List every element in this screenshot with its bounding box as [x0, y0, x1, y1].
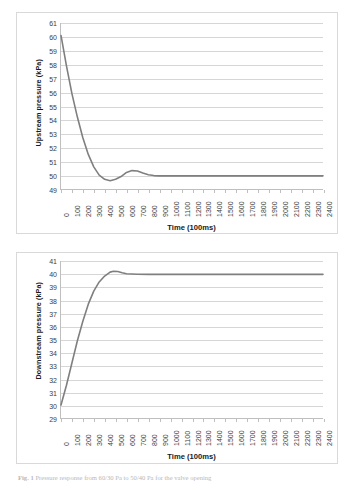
- y-tick-label: 39: [49, 284, 57, 291]
- y-tick-label: 36: [49, 323, 57, 330]
- x-tick-label: 2200: [304, 430, 311, 446]
- y-tick-label: 49: [49, 187, 57, 194]
- x-tick-label: 800: [151, 205, 158, 217]
- x-tick-label: 600: [129, 434, 136, 446]
- y-tick-label: 56: [49, 89, 57, 96]
- y-tick-label: 30: [49, 402, 57, 409]
- y-tick-label: 55: [49, 103, 57, 110]
- x-tick-label: 400: [107, 205, 114, 217]
- x-axis-title-downstream: Time (100ms): [60, 452, 323, 461]
- x-tick-label: 900: [162, 434, 169, 446]
- y-tick-label: 50: [49, 173, 57, 180]
- y-tick-label: 34: [49, 350, 57, 357]
- y-tick-label: 35: [49, 337, 57, 344]
- x-tick-label: 100: [74, 434, 81, 446]
- x-tick-label: 2300: [315, 430, 322, 446]
- chart-panel-downstream: Downstream pressure (kPa) 29303132333435…: [16, 252, 338, 464]
- x-tick-label: 800: [151, 434, 158, 446]
- x-tick-label: 1700: [249, 430, 256, 446]
- y-tick-label: 58: [49, 61, 57, 68]
- y-tick-label: 29: [49, 416, 57, 423]
- x-tick-label: 1200: [195, 201, 202, 217]
- y-tick-label: 40: [49, 271, 57, 278]
- x-tick-label: 1100: [184, 431, 191, 446]
- x-tick-label: 700: [140, 205, 147, 217]
- y-tick-label: 61: [49, 20, 57, 27]
- figure-caption-text: Pressure response from 60/30 Pa to 50/40…: [35, 474, 211, 481]
- x-tick-label: 1500: [227, 201, 234, 217]
- y-tick-label: 52: [49, 145, 57, 152]
- x-axis-tick-labels-downstream: 0100200300400500600700800900100011001200…: [60, 422, 323, 448]
- x-tick-label: 200: [85, 434, 92, 446]
- y-tick-label: 57: [49, 75, 57, 82]
- x-tick-label: 500: [118, 434, 125, 446]
- x-tick-label: 2000: [282, 201, 289, 217]
- x-tick-label: 2200: [304, 201, 311, 217]
- x-tick-label: 1500: [227, 430, 234, 446]
- x-tick-label: 300: [96, 205, 103, 217]
- figure-caption-prefix: Fig. 1: [18, 474, 34, 481]
- x-tick-label: 1800: [260, 430, 267, 446]
- chart-inner-downstream: Downstream pressure (kPa) 29303132333435…: [17, 253, 337, 463]
- figure-caption: Fig. 1 Pressure response from 60/30 Pa t…: [18, 474, 342, 482]
- x-tick-label: 1300: [205, 430, 212, 446]
- x-tick-label: 0: [63, 442, 70, 446]
- x-tick-label: 1400: [216, 430, 223, 446]
- x-tick-label: 300: [96, 434, 103, 446]
- x-tick-label: 2400: [326, 201, 333, 217]
- x-tick-label: 400: [107, 434, 114, 446]
- y-tick-label: 53: [49, 131, 57, 138]
- x-tick-label: 2100: [293, 201, 300, 217]
- series-canvas: [61, 23, 323, 189]
- data-series-line: [61, 271, 323, 405]
- y-tick-label: 38: [49, 297, 57, 304]
- y-tick-label: 32: [49, 376, 57, 383]
- y-tick-label: 33: [49, 363, 57, 370]
- chart-panel-upstream: Upstream pressure (kPa) 4950515253545556…: [16, 12, 338, 234]
- x-tick-label: 1700: [249, 201, 256, 217]
- plot-area-upstream: [60, 23, 323, 190]
- figure-container: Upstream pressure (kPa) 4950515253545556…: [0, 0, 356, 488]
- plot-area-downstream: [60, 261, 323, 419]
- x-tick-label: 1600: [238, 430, 245, 446]
- x-tick-label: 500: [118, 205, 125, 217]
- x-tick-label: 1300: [205, 201, 212, 217]
- x-tick-label: 1100: [184, 202, 191, 217]
- x-tick-label: 1600: [238, 201, 245, 217]
- y-tick-label: 59: [49, 47, 57, 54]
- x-tick-label: 1900: [271, 201, 278, 217]
- x-axis-tick-labels-upstream: 0100200300400500600700800900100011001200…: [60, 193, 323, 219]
- chart-inner-upstream: Upstream pressure (kPa) 4950515253545556…: [17, 13, 337, 233]
- y-axis-tick-labels-upstream: 49505152535455565758596061: [35, 23, 57, 190]
- y-tick-label: 51: [49, 159, 57, 166]
- x-tick-label: 1000: [173, 430, 180, 446]
- y-tick-label: 54: [49, 117, 57, 124]
- y-tick-label: 41: [49, 258, 57, 265]
- y-tick-label: 31: [49, 389, 57, 396]
- x-tick-label: 600: [129, 205, 136, 217]
- x-tick-label: 1200: [195, 430, 202, 446]
- x-tick-label: 2000: [282, 430, 289, 446]
- x-tick-label: 2300: [315, 201, 322, 217]
- y-tick-label: 60: [49, 33, 57, 40]
- x-tick-mark: [324, 190, 325, 193]
- x-axis-title-upstream: Time (100ms): [60, 223, 323, 232]
- x-tick-label: 2400: [326, 430, 333, 446]
- x-tick-label: 1400: [216, 201, 223, 217]
- x-tick-label: 1900: [271, 430, 278, 446]
- x-tick-label: 2100: [293, 430, 300, 446]
- y-tick-label: 37: [49, 310, 57, 317]
- x-tick-label: 700: [140, 434, 147, 446]
- x-tick-label: 100: [74, 205, 81, 217]
- data-series-line: [61, 35, 323, 180]
- series-canvas: [61, 261, 323, 418]
- x-tick-label: 900: [162, 205, 169, 217]
- x-tick-mark: [324, 419, 325, 422]
- x-tick-label: 1000: [173, 201, 180, 217]
- x-tick-label: 0: [63, 213, 70, 217]
- y-axis-tick-labels-downstream: 29303132333435363738394041: [35, 261, 57, 419]
- x-tick-label: 1800: [260, 201, 267, 217]
- x-tick-label: 200: [85, 205, 92, 217]
